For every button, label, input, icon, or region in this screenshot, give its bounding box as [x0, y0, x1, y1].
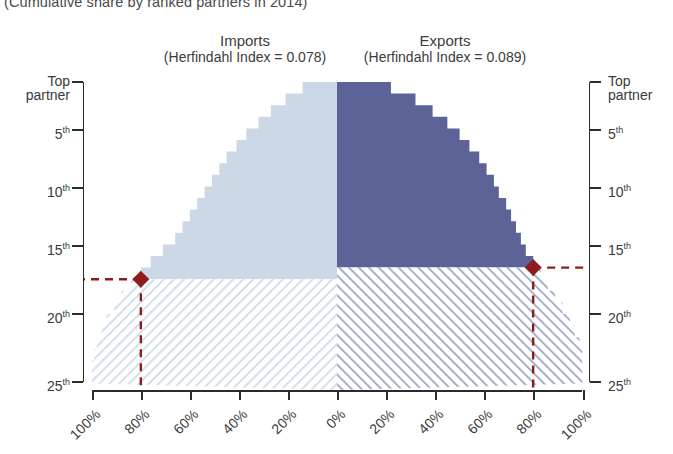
y-axis-right-tick-label: 20th	[608, 307, 631, 325]
y-axis-right-tick-label: 25th	[608, 375, 631, 393]
x-axis-tick	[484, 390, 486, 400]
imports-panel-title: Imports (Herfindahl Index = 0.078)	[130, 33, 360, 65]
y-axis-right-tick-label: 5th	[608, 123, 623, 141]
exports-panel-title: Exports (Herfindahl Index = 0.089)	[330, 33, 560, 65]
x-axis-tick-label: 40%	[208, 406, 250, 448]
y-axis-tick	[72, 81, 83, 83]
exports-herfindahl-label: (Herfindahl Index = 0.089)	[330, 49, 560, 65]
y-axis-tick	[590, 245, 601, 247]
x-axis-tick-label: 100%	[551, 406, 593, 448]
exports-title-label: Exports	[330, 33, 560, 49]
y-axis-right-tick-label: 15th	[608, 239, 631, 257]
y-axis-tick	[72, 129, 83, 131]
y-axis-left-tick-label: 20th	[0, 307, 70, 325]
x-axis-tick-label: 40%	[404, 406, 446, 448]
y-axis-left-title: Toppartner	[0, 74, 70, 102]
y-axis-tick	[590, 381, 601, 383]
y-axis-left	[83, 82, 84, 382]
plot-area	[83, 82, 590, 390]
imports-area-solid	[141, 82, 337, 279]
y-axis-right-tick-label: 10th	[608, 181, 631, 199]
x-axis-tick-label: 0%	[306, 406, 348, 448]
x-axis-tick	[533, 390, 535, 400]
x-axis-tick	[239, 390, 241, 400]
imports-herfindahl-label: (Herfindahl Index = 0.078)	[130, 49, 360, 65]
x-axis-tick-label: 80%	[502, 406, 544, 448]
x-axis-tick-label: 20%	[355, 406, 397, 448]
y-axis-tick	[72, 381, 83, 383]
y-axis-tick	[590, 313, 601, 315]
y-axis-tick	[590, 187, 601, 189]
y-axis-right	[589, 82, 590, 382]
x-axis-tick	[92, 390, 94, 400]
x-axis-tick	[435, 390, 437, 400]
x-axis-tick-label: 20%	[257, 406, 299, 448]
x-axis-tick	[141, 390, 143, 400]
exports-area-solid	[337, 82, 533, 268]
y-axis-tick	[590, 81, 601, 83]
y-axis-left-tick-label: 15th	[0, 239, 70, 257]
imports-title-label: Imports	[130, 33, 360, 49]
x-axis-tick-label: 100%	[61, 406, 103, 448]
exports-area-hatched	[337, 268, 582, 390]
chart-figure: (Cumulative share by ranked partners in …	[0, 0, 673, 454]
x-axis-left	[92, 390, 337, 392]
y-axis-right-title: Toppartner	[608, 74, 652, 102]
y-axis-tick	[590, 129, 601, 131]
x-axis-tick	[288, 390, 290, 400]
imports-area-hatched	[92, 279, 337, 390]
x-axis-tick-label: 60%	[453, 406, 495, 448]
plot-svg	[83, 82, 590, 390]
y-axis-tick	[72, 313, 83, 315]
x-axis-tick	[386, 390, 388, 400]
y-axis-tick	[72, 245, 83, 247]
x-axis-tick-label: 60%	[159, 406, 201, 448]
y-axis-tick	[72, 187, 83, 189]
x-axis-tick	[337, 390, 339, 400]
x-axis-tick	[583, 390, 585, 400]
y-axis-left-tick-label: 5th	[0, 123, 70, 141]
y-axis-left-tick-label: 25th	[0, 375, 70, 393]
x-axis-right	[337, 390, 582, 392]
chart-subtitle: (Cumulative share by ranked partners in …	[4, 0, 308, 10]
y-axis-left-tick-label: 10th	[0, 181, 70, 199]
x-axis-tick	[190, 390, 192, 400]
x-axis-tick-label: 80%	[110, 406, 152, 448]
